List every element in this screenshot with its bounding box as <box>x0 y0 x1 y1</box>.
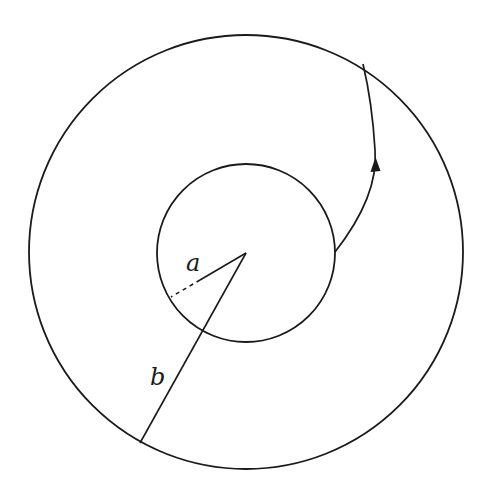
radius-b-line <box>140 253 246 443</box>
trajectory-path <box>335 64 375 252</box>
diagram-canvas: a b <box>0 0 481 494</box>
label-b: b <box>150 363 165 391</box>
label-a: a <box>186 249 200 277</box>
outer-circle <box>29 35 463 469</box>
direction-arrow-icon <box>371 157 381 172</box>
radius-a-line-dashed <box>171 280 200 297</box>
